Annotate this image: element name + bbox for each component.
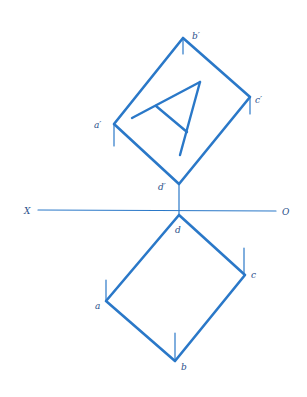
projection-diagram: X O b′ c′ a′ d′ d c a b [0,0,307,397]
label-o: O [282,207,290,217]
label-d-prime: d′ [158,182,166,192]
letter-a-shape [132,82,200,155]
label-b-prime: b′ [192,31,200,41]
label-x: X [23,206,31,216]
label-b: b [181,362,187,372]
label-d: d [175,225,181,235]
label-a: a [95,301,100,311]
label-c: c [251,270,256,280]
elevation-square [114,38,250,184]
xo-reference-line [38,210,276,211]
label-a-prime: a′ [94,120,101,130]
label-c-prime: c′ [255,95,262,105]
